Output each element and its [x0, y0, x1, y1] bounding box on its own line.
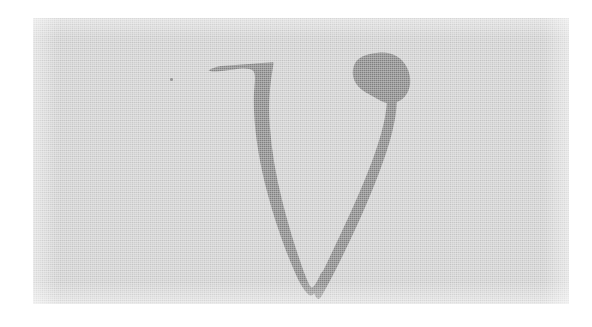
dust-speck [170, 78, 173, 81]
letter-v-glyph-svg [33, 18, 569, 304]
glyph-layer [33, 18, 569, 304]
v-hairline-upstroke-path [314, 93, 397, 299]
scanned-paper-region [33, 18, 569, 304]
v-thick-stem-path [209, 62, 310, 284]
v-ball-terminal-path [353, 53, 411, 104]
scanned-image-canvas [0, 0, 592, 327]
